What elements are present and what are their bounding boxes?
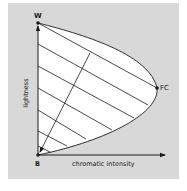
label-black: B xyxy=(35,160,40,168)
y-axis-label: lightness xyxy=(22,73,30,113)
point-w xyxy=(36,21,40,25)
gamut-region xyxy=(38,23,157,155)
point-fc xyxy=(155,86,159,90)
x-axis-label: chromatic intensity xyxy=(72,160,135,168)
point-b xyxy=(36,153,40,157)
label-white: W xyxy=(34,12,42,20)
label-full-color: FC xyxy=(160,84,169,92)
